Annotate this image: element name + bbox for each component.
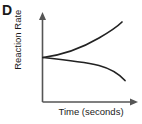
x-axis-arrowhead-icon	[130, 99, 138, 106]
chart-figure: D Reaction Rate Time (seconds)	[0, 0, 142, 124]
series-line-decreasing-curve	[43, 58, 125, 81]
y-axis-arrowhead-icon	[39, 12, 46, 20]
series-line-increasing-curve	[43, 22, 122, 58]
plot-area	[0, 0, 142, 124]
